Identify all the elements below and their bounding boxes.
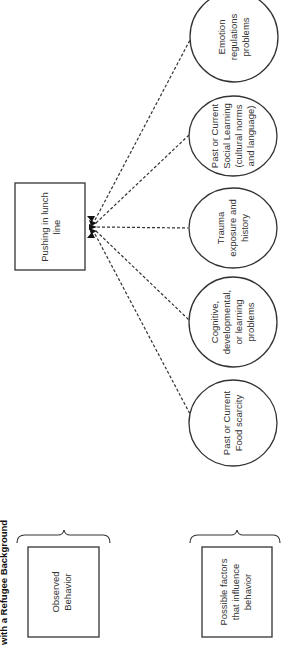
- svg-text:regulations: regulations: [228, 14, 239, 61]
- svg-text:Cognitive,: Cognitive,: [209, 301, 220, 343]
- connector-cognitive: [96, 231, 189, 320]
- svg-text:Trauma: Trauma: [215, 211, 226, 244]
- svg-text:that influence: that influence: [230, 564, 241, 621]
- factor-social-learning: Past or Current Social Learning (cultura…: [189, 96, 277, 176]
- svg-text:Possible factors: Possible factors: [218, 558, 229, 625]
- connector-food: [95, 234, 190, 414]
- svg-text:line: line: [51, 220, 62, 235]
- svg-text:Pushing in lunch: Pushing in lunch: [39, 192, 50, 262]
- connector-emotion: [95, 40, 190, 220]
- refugee-behavior-diagram: with a Refugee Background Observed Behav…: [0, 0, 281, 649]
- svg-text:history: history: [239, 214, 250, 242]
- diagram-title: with a Refugee Background: [0, 520, 9, 646]
- svg-text:and language): and language): [245, 106, 256, 167]
- svg-text:Social Learning: Social Learning: [221, 103, 232, 169]
- svg-text:Past or Current: Past or Current: [209, 103, 220, 168]
- svg-text:Emotion: Emotion: [216, 20, 227, 55]
- behavior-box: [15, 183, 85, 270]
- factor-emotion: Emotion regulations problems: [190, 0, 278, 82]
- svg-text:problems: problems: [240, 17, 251, 56]
- svg-text:Behavior: Behavior: [62, 573, 73, 611]
- factor-cognitive: Cognitive, developmental, or learning pr…: [189, 277, 277, 367]
- svg-text:exposure and: exposure and: [227, 199, 238, 257]
- observed-brace: [17, 530, 110, 543]
- svg-text:Past or Current: Past or Current: [221, 390, 232, 455]
- observed-behavior-label: Observed Behavior: [50, 571, 73, 612]
- connector-social: [96, 135, 189, 223]
- connector-trauma: [97, 227, 188, 228]
- svg-text:or learning: or learning: [233, 300, 244, 345]
- svg-text:developmental,: developmental,: [221, 290, 232, 354]
- svg-text:Observed: Observed: [50, 571, 61, 612]
- connector-lines: [95, 40, 190, 414]
- arrowhead-icon: [89, 228, 97, 234]
- factor-food-scarcity: Past or Current Food scarcity: [189, 380, 277, 466]
- title-text: with a Refugee Background: [0, 520, 9, 646]
- factor-trauma: Trauma exposure and history: [189, 188, 277, 268]
- svg-text:problems: problems: [245, 302, 256, 341]
- svg-text:Food scarcity: Food scarcity: [233, 395, 244, 452]
- svg-text:(cultural norms: (cultural norms: [233, 104, 244, 167]
- factors-brace: [190, 530, 280, 543]
- svg-text:behavior: behavior: [242, 574, 253, 610]
